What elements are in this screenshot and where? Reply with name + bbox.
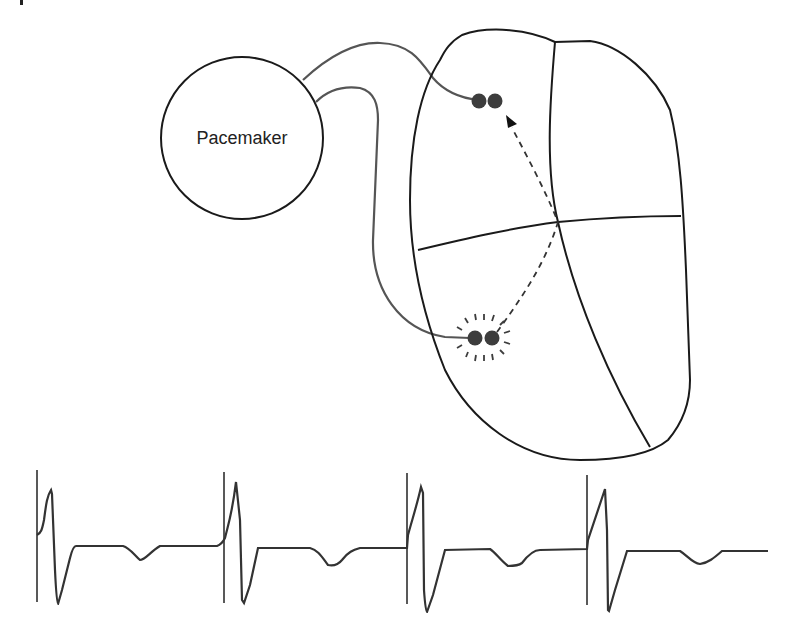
ecg-strip — [37, 470, 768, 612]
pacemaker-leads — [303, 43, 478, 338]
ventricular-lead — [316, 87, 470, 338]
corner-mark — [20, 0, 23, 5]
pacemaker-generator: Pacemaker — [161, 57, 323, 219]
arrowhead-icon — [506, 115, 517, 128]
pacing-spikes — [37, 470, 587, 605]
pacemaker-diagram: Pacemaker — [0, 0, 801, 643]
ecg-trace — [37, 482, 768, 612]
pacemaker-label: Pacemaker — [196, 128, 287, 148]
septum-line — [550, 42, 650, 447]
atrial-electrode — [472, 94, 503, 109]
